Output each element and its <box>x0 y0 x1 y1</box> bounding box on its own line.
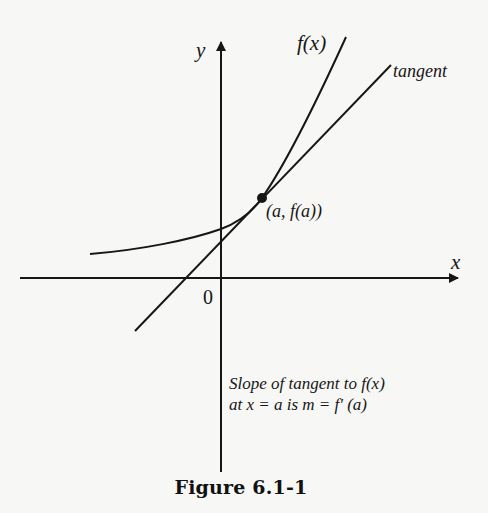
function-curve <box>90 37 346 254</box>
x-axis-label: x <box>451 252 460 273</box>
y-axis-label: y <box>196 40 205 61</box>
tangent-point-label: (a, f(a)) <box>266 202 322 220</box>
figure-caption-text: Figure 6.1-1 <box>174 476 307 498</box>
slope-annotation: Slope of tangent to f(x) at x = a is m =… <box>229 373 385 415</box>
tangent-label: tangent <box>393 62 447 80</box>
annotation-line-1: Slope of tangent to f(x) <box>229 373 385 394</box>
curve-label: f(x) <box>297 33 326 54</box>
tangent-line-figure: y f(x) tangent (a, f(a)) x 0 Slope of ta… <box>0 0 488 513</box>
figure-caption: Figure 6.1-1 <box>0 476 488 498</box>
origin-label: 0 <box>203 287 213 307</box>
annotation-line-2: at x = a is m = f' (a) <box>229 394 385 415</box>
